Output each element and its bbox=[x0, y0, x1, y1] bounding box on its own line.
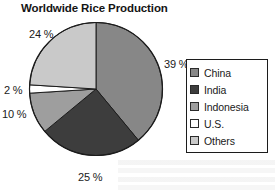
legend-label-indonesia: Indonesia bbox=[204, 101, 249, 113]
scan-artifact bbox=[118, 160, 275, 191]
slice-value-us: 2 % bbox=[4, 84, 22, 96]
slice-value-china: 39 % bbox=[164, 58, 188, 70]
chart-legend: China India Indonesia U.S. Others bbox=[186, 59, 268, 153]
legend-label-others: Others bbox=[204, 135, 235, 147]
legend-label-india: India bbox=[204, 84, 226, 96]
pie-chart-graphic bbox=[28, 21, 164, 157]
slice-value-indonesia: 10 % bbox=[2, 108, 26, 120]
pie-slices bbox=[29, 23, 162, 156]
legend-swatch-india bbox=[190, 85, 199, 94]
legend-swatch-china bbox=[190, 68, 199, 77]
legend-item-others: Others bbox=[190, 132, 267, 149]
slice-value-others: 24 % bbox=[29, 28, 53, 40]
legend-item-indonesia: Indonesia bbox=[190, 98, 267, 115]
legend-swatch-indonesia bbox=[190, 102, 199, 111]
slice-value-india: 25 % bbox=[78, 171, 102, 183]
legend-label-us: U.S. bbox=[204, 118, 224, 130]
chart-title: Worldwide Rice Production bbox=[21, 2, 168, 14]
legend-item-india: India bbox=[190, 81, 267, 98]
legend-swatch-us bbox=[190, 119, 199, 128]
legend-label-china: China bbox=[204, 67, 231, 79]
pie-chart-figure: Worldwide Rice Production 39 % 25 % 10 %… bbox=[0, 0, 275, 191]
legend-swatch-others bbox=[190, 136, 199, 145]
legend-item-us: U.S. bbox=[190, 115, 267, 132]
legend-item-china: China bbox=[190, 64, 267, 81]
